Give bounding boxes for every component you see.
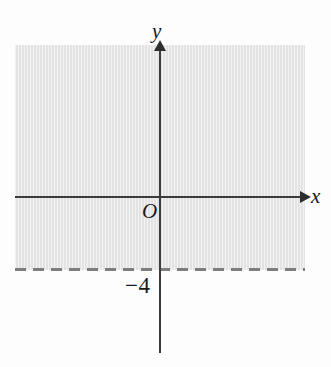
inequality-graph-figure: y x O −4 bbox=[0, 0, 331, 367]
y-axis bbox=[159, 47, 161, 353]
y-intercept-tick-label: −4 bbox=[125, 274, 150, 297]
x-axis-label: x bbox=[311, 186, 320, 207]
origin-label: O bbox=[142, 201, 157, 222]
y-axis-label: y bbox=[152, 21, 161, 42]
x-axis-arrow-icon bbox=[300, 191, 311, 203]
